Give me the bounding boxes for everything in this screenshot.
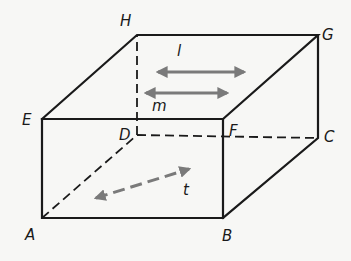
vertex-label-H: H bbox=[120, 12, 131, 30]
vertex-label-C: C bbox=[324, 128, 335, 146]
edge-DC bbox=[137, 135, 318, 138]
vertex-label-B: B bbox=[222, 227, 232, 245]
vertex-label-E: E bbox=[22, 111, 32, 129]
vector-l-label: l bbox=[177, 42, 182, 60]
vertex-label-F: F bbox=[229, 122, 238, 140]
edge-AD bbox=[42, 135, 137, 218]
vertex-label-G: G bbox=[322, 26, 334, 44]
vector-t-label: t bbox=[183, 181, 190, 199]
cuboid-diagram: l m t H G E F D C A B bbox=[0, 0, 351, 261]
vector-t-arrow bbox=[96, 169, 189, 198]
vector-m-label: m bbox=[152, 97, 167, 115]
front-face bbox=[42, 119, 223, 218]
vertex-label-D: D bbox=[119, 126, 131, 144]
vertex-label-A: A bbox=[24, 226, 35, 244]
